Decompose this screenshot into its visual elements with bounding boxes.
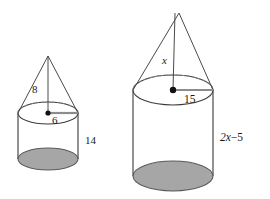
right-cylinder-height-label: 2x−5: [220, 132, 243, 144]
left-cylinder-height-label: 14: [85, 135, 96, 146]
right-center-dot: [170, 87, 176, 93]
right-cone-height-label: x: [162, 55, 167, 66]
right-cylinder-bottom-shaded-ellipse: [133, 161, 213, 191]
figure-canvas: [0, 0, 270, 199]
left-center-dot: [45, 110, 50, 115]
geometry-figure: 8 6 14 x 15 2x−5: [0, 0, 270, 199]
right-radius-label: 15: [184, 94, 196, 106]
right-height-expression-suffix: −5: [231, 131, 243, 143]
left-radius-label: 6: [52, 115, 58, 126]
left-slant-height-label: 8: [32, 84, 38, 95]
left-solid-group: [18, 56, 78, 170]
left-cylinder-bottom-shaded-ellipse: [18, 148, 78, 170]
right-solid-group: [133, 13, 213, 191]
